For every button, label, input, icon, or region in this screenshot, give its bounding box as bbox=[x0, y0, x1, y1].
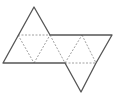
fold-line bbox=[50, 35, 65, 63]
fold-lines bbox=[18, 35, 96, 63]
fold-line bbox=[34, 35, 50, 63]
fold-line bbox=[18, 35, 34, 63]
net-outline bbox=[3, 7, 112, 92]
octahedron-net-diagram bbox=[0, 0, 119, 102]
fold-line bbox=[65, 35, 82, 63]
fold-line bbox=[82, 35, 96, 63]
